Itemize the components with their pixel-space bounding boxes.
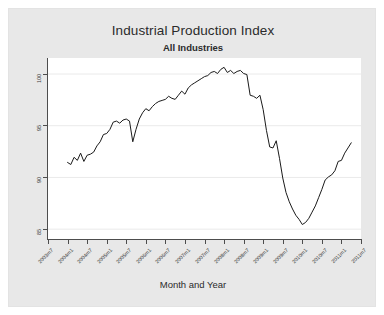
- plot-area: [48, 58, 361, 239]
- x-tick-mark: [205, 240, 206, 244]
- x-tick-mark: [126, 240, 127, 244]
- y-tick-label: 100: [36, 74, 42, 104]
- x-tick-mark: [107, 240, 108, 244]
- y-tick-mark: [43, 74, 47, 75]
- x-tick-mark: [341, 240, 342, 244]
- x-tick-mark: [146, 240, 147, 244]
- x-tick-mark: [224, 240, 225, 244]
- series-line-industrial-production: [68, 67, 352, 224]
- y-tick-label: 90: [36, 177, 42, 207]
- y-tick-mark: [43, 229, 47, 230]
- x-tick-mark: [244, 240, 245, 244]
- x-tick-mark: [68, 240, 69, 244]
- y-tick-mark: [43, 125, 47, 126]
- x-tick-mark: [361, 240, 362, 244]
- chart-title: Industrial Production Index: [9, 23, 377, 38]
- x-tick-mark: [302, 240, 303, 244]
- chart-figure: Industrial Production Index All Industri…: [8, 8, 376, 307]
- gridlines: [48, 74, 361, 229]
- y-tick-label: 95: [36, 125, 42, 155]
- x-axis-title: Month and Year: [9, 279, 377, 290]
- x-tick-mark: [322, 240, 323, 244]
- series-line-svg: [48, 58, 361, 239]
- chart-subtitle: All Industries: [9, 42, 377, 53]
- x-tick-mark: [185, 240, 186, 244]
- x-tick-mark: [165, 240, 166, 244]
- y-tick-mark: [43, 177, 47, 178]
- x-tick-mark: [263, 240, 264, 244]
- x-tick-mark: [283, 240, 284, 244]
- x-tick-mark: [87, 240, 88, 244]
- x-tick-mark: [48, 240, 49, 244]
